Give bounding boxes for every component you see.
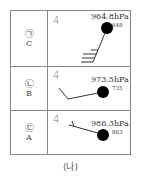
- plot-cell-b: 4 973.5hPa 735: [48, 67, 130, 110]
- circled-marker: ㉢: [25, 123, 34, 133]
- circled-marker: ㉠: [25, 29, 34, 39]
- upper-air-table: ㉠ C 4 964.8hPa 648 ㉡ B 4 973.5hPa 735: [10, 10, 131, 155]
- plot-cell-a: 4 986.3hPa 863: [48, 111, 130, 154]
- station-letter: C: [26, 39, 32, 49]
- wind-barb-icon: [48, 11, 130, 67]
- wind-barb-icon: [48, 67, 130, 111]
- circled-marker: ㉡: [25, 79, 34, 89]
- label-cell-a: ㉢ A: [11, 111, 48, 154]
- station-letter: B: [26, 89, 32, 99]
- figure-caption: (나): [0, 160, 141, 173]
- row-c: ㉠ C 4 964.8hPa 648: [11, 11, 130, 67]
- station-letter: A: [26, 133, 32, 143]
- row-b: ㉡ B 4 973.5hPa 735: [11, 67, 130, 111]
- row-a: ㉢ A 4 986.3hPa 863: [11, 111, 130, 154]
- plot-cell-c: 4 964.8hPa 648: [48, 11, 130, 66]
- wind-barb-icon: [48, 111, 130, 154]
- label-cell-b: ㉡ B: [11, 67, 48, 110]
- label-cell-c: ㉠ C: [11, 11, 48, 66]
